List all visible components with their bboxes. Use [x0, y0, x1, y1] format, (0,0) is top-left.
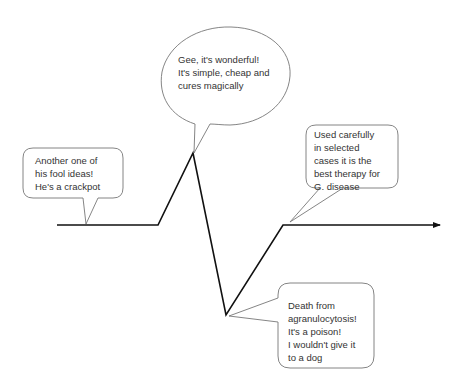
diagram-canvas: Another one of his fool ideas! He's a cr…	[0, 0, 459, 383]
rejection-text: Death from agranulocytosis! It's a poiso…	[288, 299, 357, 364]
enthusiasm-text: Gee, it's wonderful! It's simple, cheap …	[178, 53, 270, 92]
skepticism-text: Another one of his fool ideas! He's a cr…	[35, 154, 100, 193]
acceptance-text: Used carefully in selected cases it is t…	[314, 128, 380, 193]
